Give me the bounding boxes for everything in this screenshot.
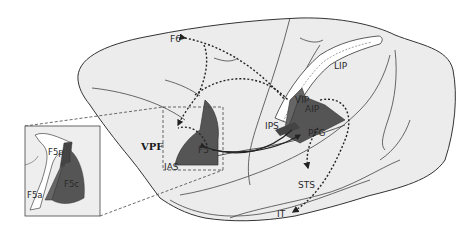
label-sts: STS — [298, 180, 315, 190]
label-ips: IPS — [265, 121, 279, 131]
label-aip: AIP — [305, 104, 320, 114]
label-f6: F6 — [170, 34, 181, 44]
inset-label-f5p: F5p — [48, 147, 64, 157]
brain-connectivity-diagram: F6 VPF F5 IAS IPS VIP AIP LIP PFG STS IT… — [0, 0, 463, 236]
label-f5: F5 — [198, 145, 209, 155]
inset-label-f5c: F5c — [64, 179, 79, 189]
label-ias: IAS — [164, 162, 179, 172]
label-vpf: VPF — [140, 141, 163, 152]
cortex-outline — [78, 18, 455, 221]
label-lip: LIP — [334, 61, 348, 71]
label-pfg: PFG — [308, 128, 326, 138]
inset-label-f5a: F5a — [27, 190, 43, 200]
label-it: IT — [277, 209, 286, 219]
